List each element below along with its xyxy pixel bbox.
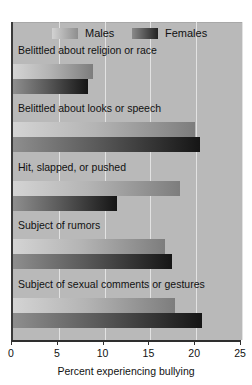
legend-swatch-males [52,28,78,39]
x-tick-label-0: 0 [8,347,14,359]
category-label: Subject of sexual comments or gestures [18,278,205,290]
bar-females [13,137,200,152]
bar-females [13,313,202,328]
x-tick-label-25: 25 [234,347,246,359]
bar-males [13,239,165,254]
bar-females [13,196,117,211]
bullying-bar-chart: MalesFemales Belittled about religion or… [0,0,252,385]
x-axis-line [11,340,240,342]
chart-legend: MalesFemales [13,22,242,44]
bar-males [13,122,195,137]
legend-label: Females [165,28,207,39]
legend-swatch-females [132,28,158,39]
category-label: Subject of rumors [18,219,100,231]
x-axis-title: Percent experiencing bullying [0,365,252,377]
legend-label: Males [85,28,114,39]
bar-group: Subject of rumors [13,219,242,277]
x-tick-20 [194,340,195,345]
legend-item-females: Females [132,26,207,40]
x-tick-label-20: 20 [188,347,200,359]
bar-group: Subject of sexual comments or gestures [13,278,242,336]
x-tick-10 [103,340,104,345]
x-tick-15 [148,340,149,345]
bar-males [13,64,93,79]
x-tick-25 [240,340,241,345]
category-label: Belittled about religion or race [18,44,157,56]
x-tick-label-5: 5 [54,347,60,359]
gridline-25 [242,22,243,340]
x-tick-0 [11,340,12,345]
x-tick-label-10: 10 [97,347,109,359]
bar-group: Belittled about religion or race [13,44,242,102]
bar-females [13,254,172,269]
x-tick-5 [57,340,58,345]
legend-item-males: Males [52,26,114,40]
bar-females [13,79,88,94]
bar-group: Belittled about looks or speech [13,102,242,160]
category-label: Belittled about looks or speech [18,102,161,114]
bar-males [13,181,180,196]
x-tick-label-15: 15 [143,347,155,359]
category-label: Hit, slapped, or pushed [18,161,126,173]
bar-group: Hit, slapped, or pushed [13,161,242,219]
plot-area: MalesFemales Belittled about religion or… [11,22,242,340]
bar-males [13,298,175,313]
